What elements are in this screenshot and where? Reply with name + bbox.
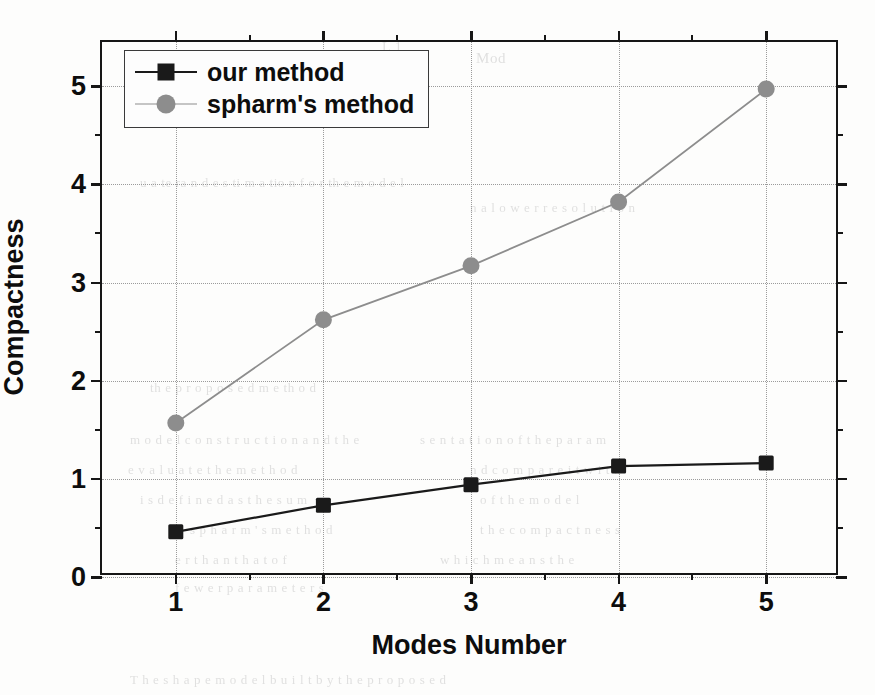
y-tick-label: 3 bbox=[71, 267, 86, 298]
data-point[interactable] bbox=[758, 81, 775, 98]
legend-item[interactable]: spharm's method bbox=[135, 88, 414, 120]
y-tick-label: 4 bbox=[71, 169, 86, 200]
series-line bbox=[176, 89, 766, 423]
y-tick-label: 5 bbox=[71, 71, 86, 102]
data-point[interactable] bbox=[759, 456, 774, 471]
x-tick-major-top bbox=[618, 31, 621, 42]
y-tick-major bbox=[91, 380, 102, 383]
x-tick-major-top bbox=[470, 31, 473, 42]
y-tick-label: 0 bbox=[71, 562, 86, 593]
data-point[interactable] bbox=[168, 524, 183, 539]
data-point[interactable] bbox=[463, 257, 480, 274]
legend-key bbox=[135, 59, 197, 85]
x-tick-minor-top bbox=[691, 35, 693, 42]
legend-key bbox=[135, 91, 197, 117]
y-tick-minor bbox=[95, 331, 102, 333]
y-tick-major bbox=[91, 183, 102, 186]
x-tick-major-top bbox=[765, 31, 768, 42]
plot-frame: 01234512345 our methodspharm's method bbox=[100, 40, 838, 575]
x-tick-minor-top bbox=[249, 35, 251, 42]
gridline-horizontal bbox=[102, 577, 836, 578]
x-tick-label: 3 bbox=[463, 587, 478, 618]
y-tick-label: 1 bbox=[71, 463, 86, 494]
legend-label: our method bbox=[207, 60, 345, 85]
data-point[interactable] bbox=[316, 498, 331, 513]
y-tick-minor bbox=[95, 134, 102, 136]
legend-label: spharm's method bbox=[207, 92, 414, 117]
data-point[interactable] bbox=[167, 414, 184, 431]
x-tick-minor-top bbox=[544, 35, 546, 42]
y-tick-minor bbox=[95, 429, 102, 431]
x-tick-major-top bbox=[322, 31, 325, 42]
chart-legend[interactable]: our methodspharm's method bbox=[124, 50, 429, 128]
data-point[interactable] bbox=[464, 477, 479, 492]
y-tick-major bbox=[91, 576, 102, 579]
x-tick-label: 5 bbox=[759, 587, 774, 618]
x-tick-minor-top bbox=[396, 35, 398, 42]
series-spharms-method bbox=[167, 81, 774, 432]
x-tick-major-top bbox=[175, 31, 178, 42]
data-point[interactable] bbox=[611, 459, 626, 474]
legend-marker-square-icon bbox=[158, 64, 175, 81]
legend-item[interactable]: our method bbox=[135, 56, 414, 88]
y-tick-major bbox=[91, 282, 102, 285]
y-tick-major bbox=[91, 478, 102, 481]
y-axis-title: Compactness bbox=[0, 218, 30, 395]
legend-marker-circle-icon bbox=[157, 95, 176, 114]
y-tick-label: 2 bbox=[71, 365, 86, 396]
series-line bbox=[176, 463, 766, 532]
x-tick-label: 2 bbox=[316, 587, 331, 618]
series-our-method bbox=[168, 456, 773, 540]
x-tick-label: 1 bbox=[168, 587, 183, 618]
data-point[interactable] bbox=[315, 311, 332, 328]
x-tick-label: 4 bbox=[611, 587, 626, 618]
compactness-line-chart: Compactness Modes Number 01234512345 our… bbox=[0, 0, 875, 695]
y-tick-minor bbox=[95, 232, 102, 234]
x-axis-title: Modes Number bbox=[371, 630, 566, 661]
y-tick-major bbox=[91, 85, 102, 88]
y-tick-minor bbox=[95, 527, 102, 529]
data-point[interactable] bbox=[610, 194, 627, 211]
